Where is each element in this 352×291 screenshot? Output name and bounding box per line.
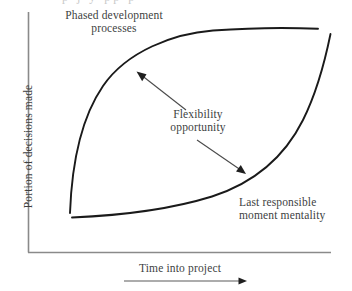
y-axis-label: Portion of decisions made xyxy=(22,56,35,236)
annotation-flexibility-opportunity: Flexibility opportunity xyxy=(150,108,246,134)
annotation-phased-development-processes: Phased development processes xyxy=(58,9,170,35)
x-axis-label: Time into project xyxy=(139,262,221,275)
x-axis-direction-arrow-group xyxy=(124,277,247,284)
figure-container: p j y pp p Phased development processes … xyxy=(0,0,352,291)
arrow-head-upper-icon xyxy=(137,72,147,82)
arrow-line-lower xyxy=(197,140,240,170)
arrow-line-upper xyxy=(143,76,187,110)
x-axis-arrow-head-icon xyxy=(239,277,248,284)
annotation-last-responsible-moment-mentality: Last responsible moment mentality xyxy=(239,196,351,222)
arrow-head-lower-icon xyxy=(236,165,246,174)
chart-canvas xyxy=(0,0,352,291)
